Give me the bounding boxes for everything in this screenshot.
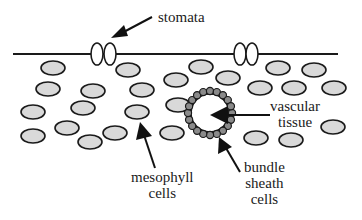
mesophyll-cell (116, 63, 140, 77)
mesophyll-cell (21, 129, 45, 143)
bundle-label-line3: cells (244, 191, 285, 207)
bundle-sheath-cell (184, 109, 191, 116)
mesophyll-cell (164, 73, 188, 87)
bundle-sheath-cell (206, 87, 213, 94)
mesophyll-cell (78, 135, 102, 149)
stomata-arrow (111, 17, 152, 38)
mesophyll-cell (103, 126, 127, 140)
bundle-sheath-cell (206, 131, 213, 138)
bundle-label-line2: sheath (244, 175, 285, 191)
bundle-sheath-cell (213, 130, 220, 137)
mesophyll-cell (282, 81, 306, 95)
vascular-tissue-label: vascular tissue (270, 98, 320, 130)
mesophyll-cell (321, 120, 345, 134)
mesophyll-cell (130, 83, 154, 97)
mesophyll-label-line1: mesophyll (131, 169, 194, 185)
mesophyll-cells-label: mesophyll cells (131, 169, 194, 201)
stoma-right (234, 43, 258, 65)
stoma-left (91, 43, 116, 65)
bundle-sheath-arrow (218, 137, 240, 172)
mesophyll-cell (248, 81, 272, 95)
mesophyll-cell (81, 84, 105, 98)
stomata-label-text: stomata (158, 9, 205, 25)
mesophyll-arrow (136, 122, 155, 168)
mesophyll-cell (216, 71, 240, 85)
vascular-label-line2: tissue (270, 114, 320, 130)
mesophyll-label-line2: cells (131, 185, 194, 201)
bundle-sheath-cell (227, 103, 234, 110)
mesophyll-cell (322, 81, 346, 95)
mesophyll-cell (189, 60, 213, 74)
mesophyll-cell (266, 61, 290, 75)
vascular-label-line1: vascular (270, 98, 320, 114)
mesophyll-cell (55, 121, 79, 135)
stomata-label: stomata (158, 9, 205, 25)
mesophyll-cell (160, 126, 184, 140)
bundle-sheath-cells-label: bundle sheath cells (244, 159, 285, 207)
bundle-sheath-cell (186, 116, 193, 123)
mesophyll-cell (36, 82, 60, 96)
mesophyll-cell (41, 61, 65, 75)
mesophyll-cell (71, 101, 95, 115)
mesophyll-cell (302, 63, 326, 77)
mesophyll-cell (279, 133, 303, 147)
mesophyll-cell (244, 131, 268, 145)
mesophyll-cell (125, 105, 149, 119)
bundle-label-line1: bundle (244, 159, 285, 175)
bundle-sheath-cell (200, 89, 207, 96)
mesophyll-cell (21, 105, 45, 119)
